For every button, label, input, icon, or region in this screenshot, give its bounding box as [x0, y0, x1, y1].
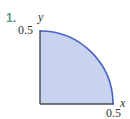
- quarter-circle-plot: [0, 0, 130, 119]
- shaded-region: [40, 31, 113, 104]
